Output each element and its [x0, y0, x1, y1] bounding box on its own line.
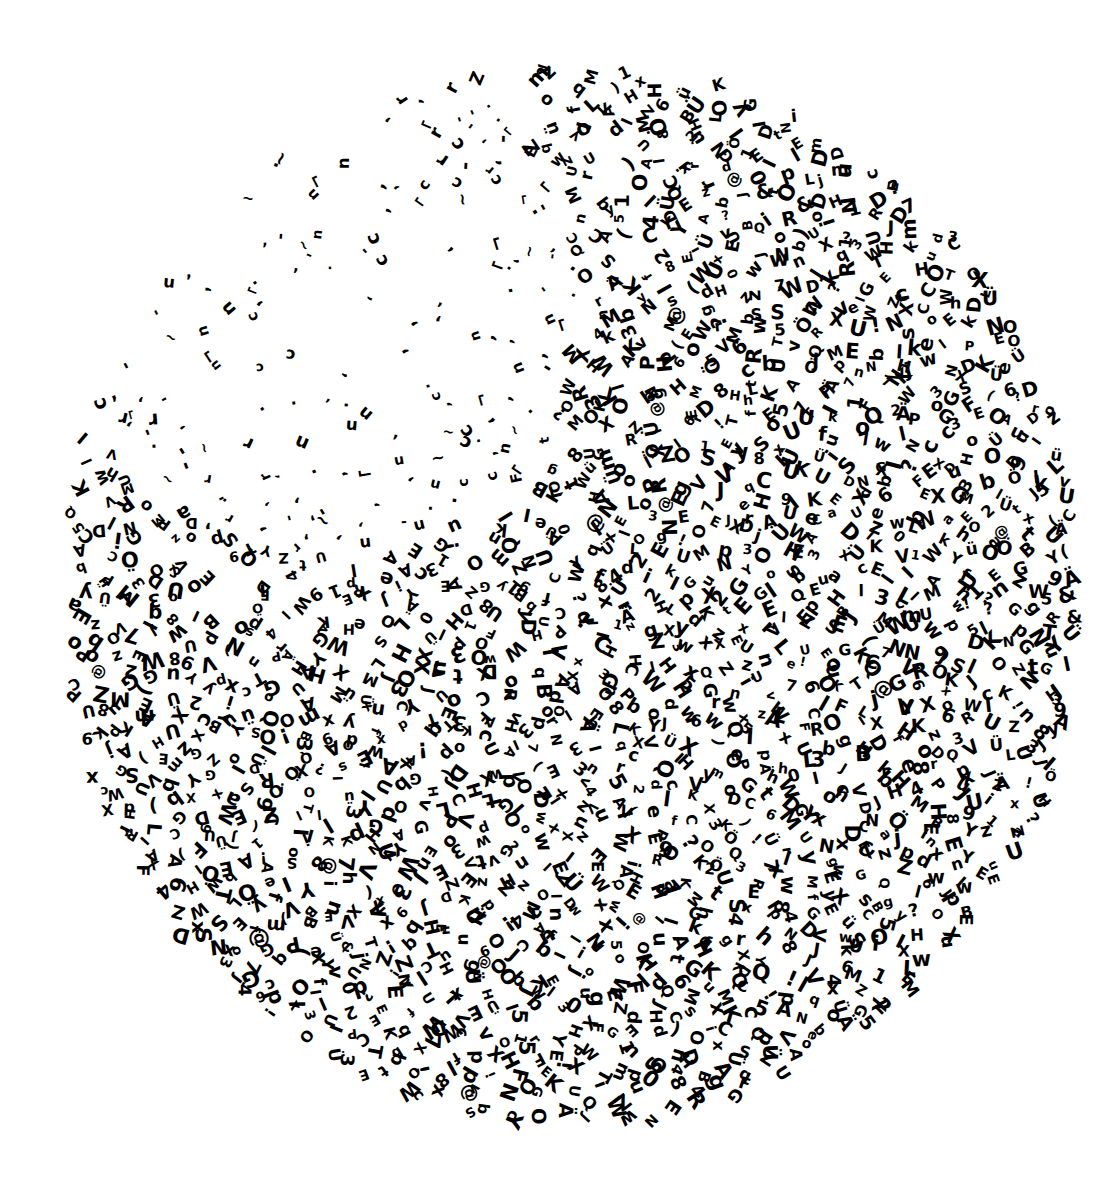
- letter-glyph: 2: [630, 784, 647, 795]
- letter-glyph: u: [831, 162, 857, 179]
- letter-glyph: c: [255, 361, 264, 376]
- letter-glyph: d: [648, 779, 664, 790]
- letter-glyph: X: [828, 307, 845, 330]
- letter-glyph: A: [484, 714, 496, 730]
- letter-glyph: X: [396, 757, 416, 771]
- letter-glyph: x: [709, 1040, 728, 1051]
- letter-glyph: d: [123, 799, 135, 818]
- letter-glyph: Z: [1008, 717, 1020, 736]
- letter-glyph: w: [776, 875, 801, 895]
- letter-glyph: E: [324, 909, 334, 925]
- letter-glyph: Ü: [988, 733, 1003, 755]
- letter-glyph: O: [968, 518, 982, 535]
- letter-glyph: C: [394, 700, 412, 713]
- letter-glyph: ~: [430, 448, 446, 469]
- letter-glyph: Z: [648, 629, 666, 654]
- letter-glyph: G: [367, 815, 384, 837]
- letter-glyph: i: [320, 880, 340, 887]
- letter-glyph: !: [417, 737, 429, 763]
- letter-glyph: H: [728, 386, 741, 403]
- letter-glyph: n: [334, 157, 353, 169]
- letter-glyph: E: [588, 861, 607, 872]
- letter-glyph: u: [454, 933, 474, 945]
- letter-glyph: w: [768, 245, 791, 272]
- letter-glyph: -: [453, 161, 477, 171]
- letter-glyph: t: [452, 664, 463, 688]
- letter-glyph: o: [453, 739, 466, 759]
- letter-glyph: n: [308, 229, 325, 241]
- letter-glyph: 7: [525, 742, 541, 753]
- letter-glyph: h: [742, 391, 754, 408]
- letter-glyph: ‘: [293, 257, 300, 275]
- letter-glyph: O: [627, 173, 652, 192]
- letter-glyph: X: [559, 830, 576, 842]
- letter-glyph: P: [907, 409, 921, 429]
- letter-glyph: L: [142, 822, 166, 836]
- letter-glyph: z: [473, 877, 493, 888]
- letter-glyph: (: [828, 870, 844, 877]
- letter-glyph: N: [1002, 633, 1015, 650]
- letter-glyph: l: [781, 608, 787, 625]
- letter-glyph: ,: [192, 286, 212, 293]
- letter-glyph: l: [548, 894, 564, 899]
- letter-glyph: G: [479, 579, 491, 595]
- letter-glyph: 3: [336, 1053, 358, 1067]
- letter-glyph: ): [224, 643, 230, 658]
- letter-glyph: .: [151, 441, 158, 460]
- letter-glyph: J: [715, 478, 725, 502]
- letter-glyph: M: [804, 875, 821, 890]
- letter-glyph: n: [162, 274, 175, 294]
- letter-glyph: U: [766, 357, 790, 374]
- letter-glyph: l: [330, 776, 345, 781]
- letter-glyph: u: [166, 663, 181, 686]
- letter-glyph: J: [660, 714, 667, 732]
- letter-glyph: x: [85, 767, 99, 790]
- letter-glyph: o: [168, 590, 178, 606]
- letter-glyph: ‘: [261, 232, 268, 250]
- letter-glyph: d: [620, 557, 634, 578]
- letter-glyph: .: [427, 503, 433, 522]
- letter-glyph: ’: [415, 98, 434, 104]
- letter-glyph: O: [526, 1107, 551, 1126]
- letter-glyph: ¬: [355, 462, 374, 485]
- letter-glyph: C: [683, 814, 700, 825]
- letter-glyph: 5: [611, 214, 626, 223]
- letter-glyph: S: [286, 854, 297, 872]
- letter-glyph: H: [644, 83, 665, 99]
- letter-glyph: j: [811, 349, 820, 371]
- letter-glyph: n: [345, 416, 358, 436]
- letter-glyph: &: [339, 940, 357, 954]
- letter-glyph: X: [701, 803, 718, 815]
- letter-glyph: ): [149, 795, 159, 816]
- letter-glyph: n: [545, 907, 568, 922]
- letter-glyph: w: [927, 865, 945, 889]
- letter-glyph: P: [964, 338, 975, 354]
- letter-glyph: -: [401, 515, 407, 531]
- letter-glyph: H: [646, 1009, 667, 1024]
- letter-glyph: O: [342, 737, 354, 753]
- letter-glyph: E: [260, 587, 270, 603]
- letter-glyph: B: [855, 741, 872, 767]
- letter-glyph: H: [425, 785, 442, 798]
- letter-glyph: h: [950, 294, 962, 313]
- letter-glyph: x: [831, 837, 856, 851]
- letter-glyph: l: [858, 581, 864, 600]
- letter-glyph: 8: [654, 129, 671, 140]
- letter-glyph: G: [740, 98, 760, 112]
- letter-glyph: D: [481, 660, 498, 683]
- letter-glyph: R: [834, 260, 860, 279]
- letter-glyph: w: [746, 315, 772, 336]
- letter-glyph: 8: [943, 812, 963, 825]
- letter-glyph: N: [865, 810, 880, 831]
- letter-glyph: 8: [753, 449, 765, 469]
- letter-glyph: Q: [750, 959, 772, 986]
- letter-glyph: X: [185, 790, 197, 806]
- letter-glyph: Ü: [982, 286, 999, 310]
- letter-glyph: Ö: [119, 546, 140, 573]
- letter-glyph: ~: [241, 190, 255, 208]
- letter-glyph: Ä: [554, 1103, 579, 1119]
- letter-glyph: A: [469, 970, 484, 982]
- letter-glyph: E: [844, 338, 860, 364]
- letter-glyph: 4: [235, 984, 256, 996]
- letter-glyph: H: [910, 925, 925, 945]
